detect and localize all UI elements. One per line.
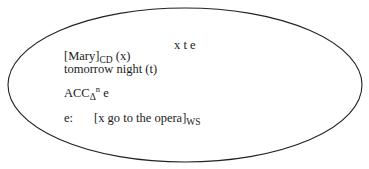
condition-tomorrow-night: tomorrow night (t) [64,63,157,76]
drs-ellipse [0,0,369,169]
condition-sub: WS [186,117,200,127]
discourse-referents: x t e [174,39,196,52]
condition-main: [x go to the opera] [94,111,186,125]
condition-event-content: [x go to the opera]WS [94,112,201,125]
condition-tail: (x) [113,49,131,63]
condition-mary: [Mary]CD (x) [64,50,130,63]
condition-tail: e [100,86,109,100]
condition-label: e: [64,111,73,125]
condition-event: e: [64,112,73,125]
condition-main: tomorrow night (t) [64,62,157,76]
condition-main: [Mary] [64,49,99,63]
universe-text: x t e [174,38,196,52]
condition-acc: ACCΔn e [64,87,109,100]
condition-main: ACC [64,86,90,100]
